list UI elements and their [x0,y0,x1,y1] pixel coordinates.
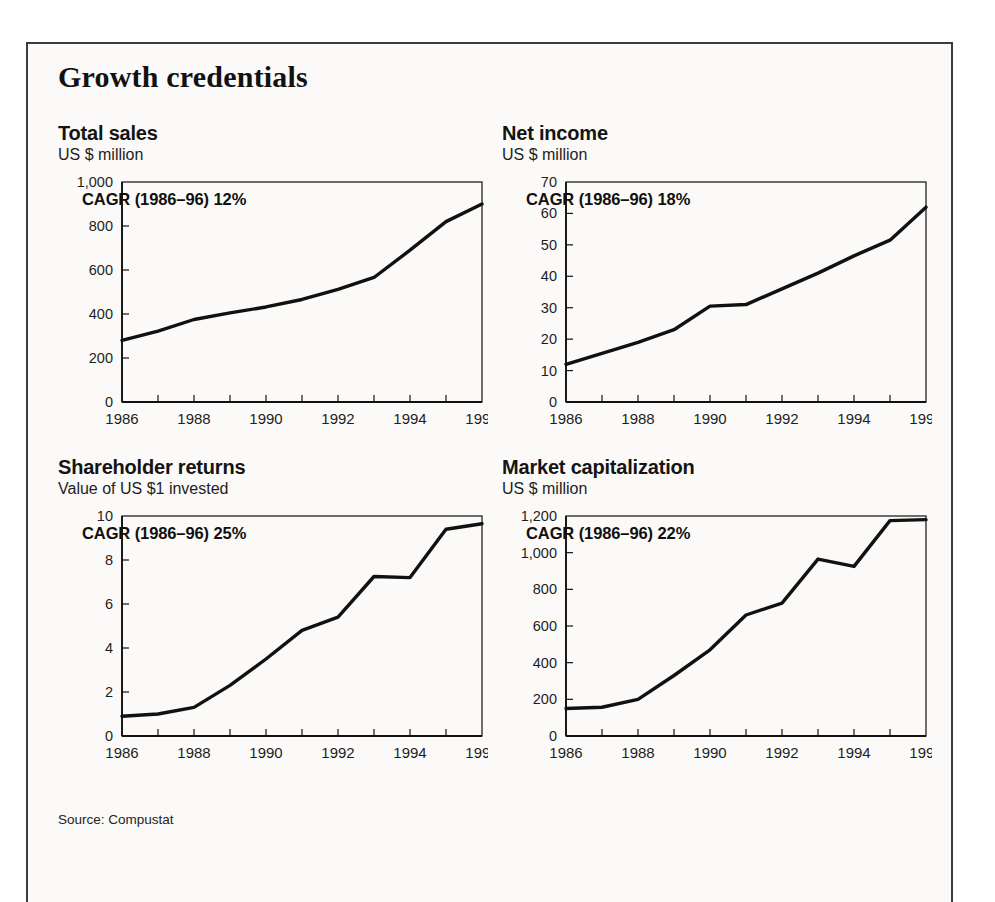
panel-subtitle: US $ million [502,479,932,499]
y-axis-tick-label: 0 [105,394,113,410]
panel-shareholder-returns: Shareholder returns Value of US $1 inves… [58,456,488,778]
data-series-line [122,204,482,340]
x-axis-tick-label: 1986 [549,744,582,761]
x-axis-tick-label: 1994 [393,410,426,427]
y-axis-tick-label: 10 [97,508,113,524]
x-axis-tick-label: 1992 [765,410,798,427]
cagr-annotation: CAGR (1986–96) 18% [526,190,690,209]
data-series-line [566,207,926,364]
exhibit-frame: Growth credentials Total sales US $ mill… [26,42,953,902]
x-axis-tick-label: 1994 [837,410,870,427]
page-title: Growth credentials [58,60,308,94]
y-axis-tick-label: 30 [541,300,557,316]
y-axis-tick-label: 200 [533,691,557,707]
y-axis-tick-label: 70 [541,174,557,190]
plot-area-shareholder-returns: 0246810198619881990199219941996 [58,508,488,778]
chart-total-sales: CAGR (1986–96) 12% 02004006008001,000198… [58,174,488,444]
x-axis-tick-label: 1986 [105,744,138,761]
y-axis-tick-label: 20 [541,331,557,347]
cagr-annotation: CAGR (1986–96) 25% [82,524,246,543]
x-axis-tick-label: 1990 [693,410,726,427]
panel-title: Net income [502,122,932,144]
x-axis-tick-label: 1992 [765,744,798,761]
x-axis-tick-label: 1988 [177,410,210,427]
x-axis-tick-label: 1996 [465,410,488,427]
x-axis-tick-label: 1988 [621,744,654,761]
x-axis-tick-label: 1996 [465,744,488,761]
source-note: Source: Compustat [58,812,174,827]
panel-subtitle: US $ million [502,145,932,165]
x-axis-tick-label: 1988 [621,410,654,427]
y-axis-tick-label: 1,000 [521,545,557,561]
x-axis-tick-label: 1990 [249,410,282,427]
y-axis-tick-label: 10 [541,363,557,379]
x-axis-tick-label: 1994 [393,744,426,761]
panel-title: Market capitalization [502,456,932,478]
y-axis-tick-label: 1,200 [521,508,557,524]
y-axis-tick-label: 800 [89,218,113,234]
panel-total-sales: Total sales US $ million CAGR (1986–96) … [58,122,488,444]
y-axis-tick-label: 1,000 [77,174,113,190]
data-series-line [122,524,482,717]
x-axis-tick-label: 1986 [105,410,138,427]
y-axis-tick-label: 800 [533,581,557,597]
y-axis-tick-label: 600 [533,618,557,634]
y-axis-tick-label: 50 [541,237,557,253]
y-axis-tick-label: 6 [105,596,113,612]
chart-net-income: CAGR (1986–96) 18% 010203040506070198619… [502,174,932,444]
y-axis-tick-label: 0 [105,728,113,744]
cagr-annotation: CAGR (1986–96) 12% [82,190,246,209]
y-axis-tick-label: 200 [89,350,113,366]
chart-shareholder-returns: CAGR (1986–96) 25% 024681019861988199019… [58,508,488,778]
panel-subtitle: Value of US $1 invested [58,479,488,499]
x-axis-tick-label: 1986 [549,410,582,427]
y-axis-tick-label: 4 [105,640,113,656]
y-axis-tick-label: 2 [105,684,113,700]
y-axis-tick-label: 400 [89,306,113,322]
panel-title: Total sales [58,122,488,144]
x-axis-tick-label: 1996 [909,410,932,427]
y-axis-tick-label: 600 [89,262,113,278]
y-axis-tick-label: 0 [549,728,557,744]
x-axis-tick-label: 1990 [693,744,726,761]
plot-area-market-capitalization: 02004006008001,0001,20019861988199019921… [502,508,932,778]
x-axis-tick-label: 1996 [909,744,932,761]
x-axis-tick-label: 1988 [177,744,210,761]
data-series-line [566,520,926,709]
panel-net-income: Net income US $ million CAGR (1986–96) 1… [502,122,932,444]
panel-market-capitalization: Market capitalization US $ million CAGR … [502,456,932,778]
plot-area-net-income: 010203040506070198619881990199219941996 [502,174,932,444]
y-axis-tick-label: 8 [105,552,113,568]
chart-market-capitalization: CAGR (1986–96) 22% 02004006008001,0001,2… [502,508,932,778]
x-axis-tick-label: 1992 [321,744,354,761]
x-axis-tick-label: 1994 [837,744,870,761]
plot-area-total-sales: 02004006008001,0001986198819901992199419… [58,174,488,444]
panel-subtitle: US $ million [58,145,488,165]
x-axis-tick-label: 1990 [249,744,282,761]
y-axis-tick-label: 0 [549,394,557,410]
y-axis-tick-label: 40 [541,268,557,284]
cagr-annotation: CAGR (1986–96) 22% [526,524,690,543]
y-axis-tick-label: 400 [533,655,557,671]
x-axis-tick-label: 1992 [321,410,354,427]
panel-title: Shareholder returns [58,456,488,478]
